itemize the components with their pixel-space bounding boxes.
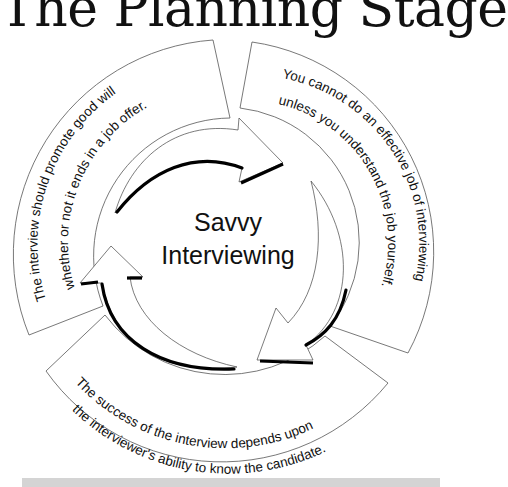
- footer-bar: [22, 478, 440, 487]
- center-label-line1: Savvy: [194, 208, 263, 236]
- arrow-right-icon: [257, 181, 346, 363]
- center-label-line2: Interviewing: [161, 241, 294, 269]
